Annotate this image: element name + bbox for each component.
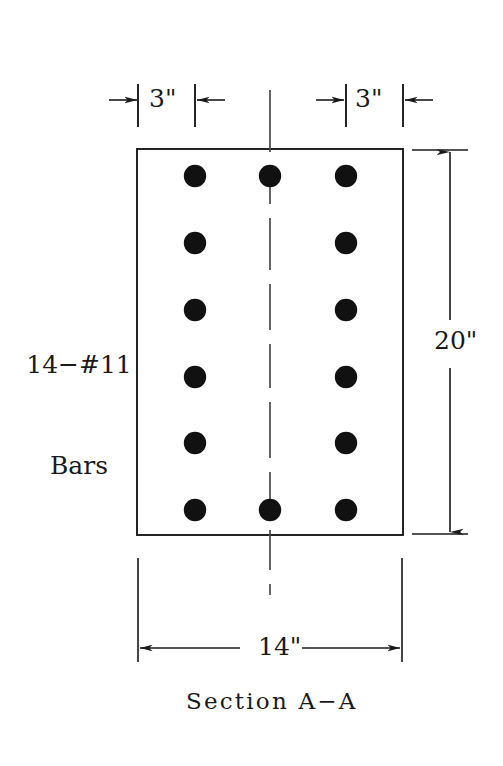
- rebar-bar: [184, 366, 206, 388]
- rebar-bar: [184, 499, 206, 521]
- rebar-bar: [335, 299, 357, 321]
- rebar-bar: [335, 432, 357, 454]
- rebar-bar: [259, 165, 281, 187]
- rebar-bar: [335, 499, 357, 521]
- section-caption: Section A−A: [186, 690, 358, 713]
- dimension-label-cover-left: 3": [149, 86, 176, 111]
- rebar-bar: [259, 499, 281, 521]
- rebar-bar: [335, 366, 357, 388]
- rebar-bar: [184, 232, 206, 254]
- dimension-label-cover-right: 3": [355, 86, 382, 111]
- rebar-callout-line-1: 14−#11: [25, 348, 133, 382]
- rebar-bar: [335, 165, 357, 187]
- dimension-label-width: 14": [258, 634, 301, 659]
- rebar-bar: [184, 299, 206, 321]
- rebar-bar: [184, 432, 206, 454]
- section-drawing-canvas: 3" 3" 20" 14" 14−#11 Bars Section A−A: [0, 0, 503, 766]
- rebar-callout-line-2: Bars: [25, 449, 133, 483]
- dimension-label-height: 20": [434, 328, 477, 353]
- rebar-bar: [335, 232, 357, 254]
- rebar-bar: [184, 165, 206, 187]
- rebar-callout-label: 14−#11 Bars: [25, 280, 133, 550]
